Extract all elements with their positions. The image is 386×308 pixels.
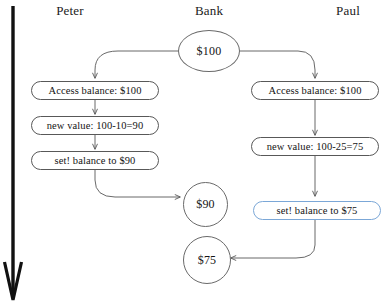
lane-label-paul: Paul [318, 3, 378, 19]
node-bank-balance-after-peter: $90 [183, 182, 228, 227]
node-peter-access-balance: Access balance: $100 [31, 81, 159, 100]
node-peter-set-balance: set! balance to $90 [31, 151, 159, 170]
edge-bank-to-peter-access [95, 51, 178, 78]
node-paul-access-balance: Access balance: $100 [251, 81, 379, 100]
edge-paul-set-to-bank75 [231, 219, 315, 258]
node-bank-balance-after-paul: $75 [183, 236, 231, 284]
node-bank-initial-balance: $100 [178, 30, 240, 72]
node-peter-new-value: new value: 100-10=90 [31, 116, 159, 135]
edge-peter-set-to-bank90 [95, 169, 180, 197]
time-axis-arrow [5, 6, 22, 300]
bank-concurrency-diagram: Peter Bank Paul $100 Access balance: $10… [0, 0, 386, 308]
lane-label-bank: Bank [173, 3, 245, 19]
lane-label-peter: Peter [34, 3, 106, 19]
node-paul-new-value: new value: 100-25=75 [251, 137, 379, 156]
node-paul-set-balance: set! balance to $75 [253, 201, 381, 220]
edge-bank-to-paul-access [240, 51, 315, 78]
